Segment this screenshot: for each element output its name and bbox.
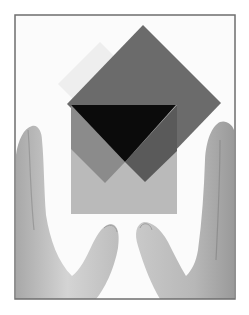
- photo: [0, 0, 249, 315]
